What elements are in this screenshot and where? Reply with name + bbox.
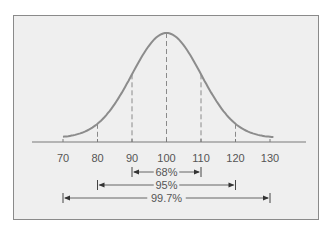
tick-label-110: 110 [192,152,210,164]
tick-label-70: 70 [57,152,69,164]
interval-brackets: 68%95%99.7% [63,166,270,204]
arrowhead-right-icon [229,183,235,188]
interval-label-99_7pct: 99.7% [151,192,182,204]
interval-label-95pct: 95% [155,179,177,191]
tick-label-120: 120 [226,152,244,164]
arrowhead-left-icon [133,170,139,175]
normal-distribution-chart: 708090100110120130 68%95%99.7% [0,0,332,231]
arrowhead-right-icon [194,170,200,175]
sigma-dashed-lines [98,33,236,142]
x-axis-ticks: 708090100110120130 [57,139,279,164]
bell-curve [63,33,273,137]
arrowhead-left-icon [64,196,70,201]
interval-label-68pct: 68% [155,166,177,178]
tick-label-130: 130 [261,152,279,164]
arrowhead-left-icon [99,183,105,188]
arrowhead-right-icon [263,196,269,201]
tick-label-100: 100 [157,152,175,164]
tick-label-90: 90 [126,152,138,164]
tick-label-80: 80 [91,152,103,164]
